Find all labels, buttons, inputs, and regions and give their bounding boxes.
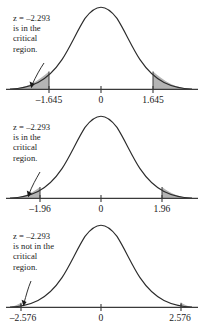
annotation-text-2: z = –2.293 is in the critical region. [13,122,50,163]
annotation-line-2: is in the [13,23,50,33]
annotation-line-4: region. [13,44,50,54]
x-tick-label-right: 1.645 [142,94,164,105]
distribution-panel-1: –1.645 0 1.645 z = –2.293 is in the crit… [0,0,204,110]
annotation-line-4: region. [13,153,50,163]
annotation-arrow-line [24,281,31,303]
annotation-line-2: is in the [13,132,50,142]
annotation-line-3: critical [13,142,50,152]
annotation-line-3: critical [13,33,50,43]
x-tick-label-left: –1.96 [28,203,51,214]
annotation-text-3: z = –2.293 is not in the critical region… [13,231,54,272]
annotation-line-1: z = –2.293 [13,122,50,132]
annotation-line-2: is not in the [13,241,54,251]
x-tick-label-center: 0 [99,203,104,214]
annotation-line-3: critical [13,251,54,261]
annotation-text-1: z = –2.293 is in the critical region. [13,13,50,54]
distribution-panel-2: –1.96 0 1.96 z = –2.293 is in the critic… [0,109,204,219]
right-critical-region-shade [153,72,190,90]
annotation-line-1: z = –2.293 [13,231,54,241]
distribution-panel-3: –2.576 0 2.576 z = –2.293 is not in the … [0,218,204,328]
x-tick-label-left: –1.645 [35,94,63,105]
x-tick-label-center: 0 [99,94,104,105]
annotation-line-4: region. [13,262,54,272]
annotation-line-1: z = –2.293 [13,13,50,23]
x-tick-label-right: 2.576 [169,312,191,323]
left-critical-region-shade [12,72,49,90]
x-tick-label-center: 0 [99,312,104,323]
x-tick-label-left: –2.576 [9,312,37,323]
x-tick-label-right: 1.96 [154,203,171,214]
